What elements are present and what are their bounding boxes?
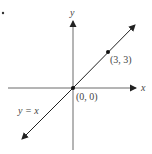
y-axis-label: y xyxy=(69,7,75,18)
equation-label: y = x xyxy=(17,105,39,116)
point-origin xyxy=(71,86,75,90)
x-axis-label: x xyxy=(140,82,146,93)
graph-y-equals-x: y x (3, 3) (0, 0) y = x xyxy=(0,0,152,154)
point-origin-label: (0, 0) xyxy=(76,91,98,103)
point-3-3-label: (3, 3) xyxy=(110,54,132,66)
bullet-marker xyxy=(2,12,4,14)
